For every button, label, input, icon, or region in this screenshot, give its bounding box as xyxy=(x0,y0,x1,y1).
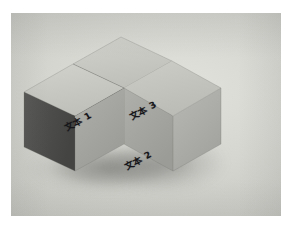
screenshot-root: 文本 1 文本 2 文本 3 xyxy=(0,0,291,234)
photo-plate: 文本 1 文本 2 文本 3 xyxy=(11,13,281,216)
